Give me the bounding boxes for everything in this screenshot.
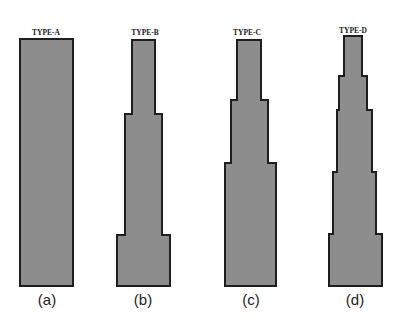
building-types-figure: TYPE-A (a) TYPE-B (b) TYPE-C (c) TYPE-D … <box>0 0 399 332</box>
panel-type-b: TYPE-B (b) <box>117 28 170 308</box>
type-d-shape <box>329 36 382 286</box>
panel-type-c: TYPE-C (c) <box>225 28 276 308</box>
type-a-label: TYPE-A <box>32 28 61 37</box>
subfigure-label-c: (c) <box>242 291 260 308</box>
subfigure-label-a: (a) <box>38 291 56 308</box>
panel-type-d: TYPE-D (d) <box>329 26 382 308</box>
type-c-shape <box>225 40 276 286</box>
type-a-shape <box>20 39 73 286</box>
subfigure-label-b: (b) <box>134 291 152 308</box>
type-d-label: TYPE-D <box>339 26 368 35</box>
type-b-shape <box>117 40 170 286</box>
type-c-label: TYPE-C <box>233 28 261 37</box>
type-b-label: TYPE-B <box>131 28 159 37</box>
subfigure-label-d: (d) <box>346 291 364 308</box>
panel-type-a: TYPE-A (a) <box>20 28 73 308</box>
